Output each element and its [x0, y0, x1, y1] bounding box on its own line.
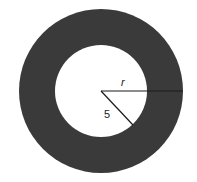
inner-radius-label: 5 [104, 108, 110, 120]
annulus-diagram: r 5 [0, 0, 197, 182]
